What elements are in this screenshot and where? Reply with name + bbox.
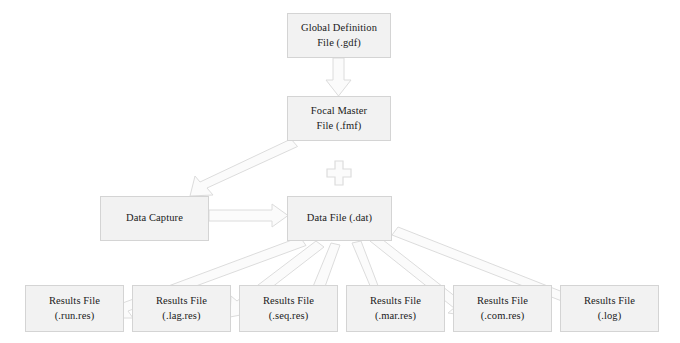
node-results-file-seq-label: Results File (.seq.res)	[260, 294, 317, 324]
node-label-line-1: Data Capture	[126, 211, 183, 226]
node-focal-master-file[interactable]: Focal Master File (.fmf)	[287, 96, 391, 141]
node-results-file-run[interactable]: Results File (.run.res)	[25, 285, 124, 332]
node-label-line-1: Results File	[584, 294, 635, 309]
node-label-line-2: (.lag.res)	[156, 309, 207, 324]
node-results-file-com[interactable]: Results File (.com.res)	[453, 285, 552, 332]
arrow-gdf-to-fmf	[326, 58, 351, 96]
node-results-file-log-label: Results File (.log)	[581, 294, 638, 324]
arrow-capture-to-datafile	[209, 204, 288, 227]
node-label-line-2: (.seq.res)	[263, 309, 314, 324]
node-label-line-2: (.run.res)	[49, 309, 100, 324]
node-label-line-1: Results File	[263, 294, 314, 309]
node-label-line-2: (.mar.res)	[370, 309, 421, 324]
node-label-line-2: (.com.res)	[477, 309, 528, 324]
node-label-line-1: Results File	[370, 294, 421, 309]
node-global-definition-file-label: Global Definition File (.gdf)	[298, 21, 380, 51]
node-label-line-1: Results File	[477, 294, 528, 309]
node-label-line-1: Results File	[49, 294, 100, 309]
plus-icon	[326, 160, 352, 186]
node-focal-master-file-label: Focal Master File (.fmf)	[308, 104, 370, 134]
node-results-file-com-label: Results File (.com.res)	[474, 294, 531, 324]
node-label-line-1: Focal Master	[311, 104, 367, 119]
node-results-file-mar[interactable]: Results File (.mar.res)	[346, 285, 445, 332]
node-label-line-1: Results File	[156, 294, 207, 309]
node-data-file[interactable]: Data File (.dat)	[287, 196, 392, 241]
node-label-line-1: Data File (.dat)	[307, 211, 372, 226]
node-results-file-seq[interactable]: Results File (.seq.res)	[239, 285, 338, 332]
node-label-line-1: Global Definition	[301, 21, 377, 36]
node-label-line-2: (.log)	[584, 309, 635, 324]
node-data-capture-label: Data Capture	[123, 211, 186, 226]
node-label-line-2: File (.fmf)	[311, 119, 367, 134]
arrow-fmf-to-capture	[190, 139, 298, 196]
node-results-file-mar-label: Results File (.mar.res)	[367, 294, 424, 324]
node-data-capture[interactable]: Data Capture	[100, 196, 209, 241]
node-global-definition-file[interactable]: Global Definition File (.gdf)	[287, 13, 391, 58]
node-results-file-lag[interactable]: Results File (.lag.res)	[132, 285, 231, 332]
node-results-file-lag-label: Results File (.lag.res)	[153, 294, 210, 324]
node-results-file-run-label: Results File (.run.res)	[46, 294, 103, 324]
diagram-canvas: Global Definition File (.gdf) Focal Mast…	[0, 0, 680, 343]
node-data-file-label: Data File (.dat)	[304, 211, 375, 226]
node-label-line-2: File (.gdf)	[301, 36, 377, 51]
node-results-file-log[interactable]: Results File (.log)	[560, 285, 659, 332]
